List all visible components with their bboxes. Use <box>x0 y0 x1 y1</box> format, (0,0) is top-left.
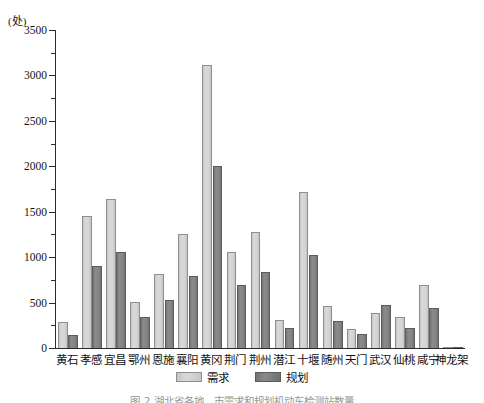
bar-demand <box>202 65 212 348</box>
bar-demand <box>178 234 188 348</box>
x-category-label: 宜昌 <box>104 351 126 367</box>
x-axis-category-labels: 黄石孝感宜昌鄂州恩施襄阳黄冈荆门荆州潜江十堰随州天门武汉仙桃咸宁神龙架 <box>55 351 465 367</box>
y-minor-tick-mark <box>51 325 55 326</box>
bar-group <box>251 30 271 348</box>
bar-demand <box>371 313 381 348</box>
y-tick-mark <box>49 257 55 258</box>
bar-group <box>227 30 247 348</box>
x-category-label: 孝感 <box>80 351 102 367</box>
bar-group <box>58 30 78 348</box>
bar-group <box>178 30 198 348</box>
bar-demand <box>106 199 116 348</box>
x-category-label: 潜江 <box>273 351 295 367</box>
bar-demand <box>347 329 357 348</box>
y-tick-mark <box>49 348 55 349</box>
bar-plan <box>237 285 247 348</box>
legend-item-plan: 规划 <box>255 369 308 385</box>
bar-plan <box>213 166 223 348</box>
bar-demand <box>275 320 285 348</box>
x-category-label: 鄂州 <box>128 351 150 367</box>
bar-plan <box>68 335 78 348</box>
y-minor-tick-mark <box>51 280 55 281</box>
x-category-label: 天门 <box>345 351 367 367</box>
y-tick-label: 1500 <box>24 206 47 218</box>
bar-group <box>395 30 415 348</box>
bar-group <box>419 30 439 348</box>
bar-group <box>275 30 295 348</box>
bar-demand <box>82 216 92 348</box>
bar-demand <box>443 347 453 348</box>
x-category-label: 黄石 <box>56 351 78 367</box>
bar-demand <box>395 317 405 348</box>
x-category-label: 仙桃 <box>393 351 415 367</box>
y-tick-label: 0 <box>41 342 47 354</box>
y-tick-label: 3000 <box>24 69 47 81</box>
bar-plan <box>92 266 102 348</box>
bar-group <box>443 30 463 348</box>
bar-demand <box>58 322 68 348</box>
x-category-label: 黄冈 <box>200 351 222 367</box>
bar-group <box>299 30 319 348</box>
bar-plan <box>189 276 199 348</box>
y-minor-tick-mark <box>51 98 55 99</box>
y-tick-mark <box>49 30 55 31</box>
figure-caption: 图 2 湖北省各地、市需求和规划机动车检测站数量 <box>0 393 484 403</box>
bar-group <box>154 30 174 348</box>
bar-demand <box>154 274 164 349</box>
x-category-label: 随州 <box>321 351 343 367</box>
x-category-label: 十堰 <box>297 351 319 367</box>
bar-plan <box>261 272 271 348</box>
x-axis-line <box>55 348 465 349</box>
y-tick-mark <box>49 303 55 304</box>
chart-container: (处) 0500100015002000250030003500 黄石孝感宜昌鄂… <box>0 0 484 403</box>
bar-plan <box>140 317 150 348</box>
y-minor-tick-mark <box>51 189 55 190</box>
y-tick-label: 3500 <box>24 24 47 36</box>
bar-group <box>347 30 367 348</box>
x-category-label: 恩施 <box>152 351 174 367</box>
bar-plan <box>285 328 295 348</box>
y-tick-mark <box>49 166 55 167</box>
y-minor-tick-mark <box>51 53 55 54</box>
bar-demand <box>299 192 309 348</box>
bar-group <box>202 30 222 348</box>
bar-plan <box>453 347 463 348</box>
bar-group <box>106 30 126 348</box>
x-category-label: 襄阳 <box>176 351 198 367</box>
bar-demand <box>130 302 140 348</box>
legend-label-demand: 需求 <box>207 369 229 385</box>
bar-plan <box>357 334 367 348</box>
x-category-label: 荆州 <box>249 351 271 367</box>
y-tick-label: 1000 <box>24 251 47 263</box>
y-tick-mark <box>49 75 55 76</box>
y-tick-mark <box>49 212 55 213</box>
bar-series-group <box>56 30 465 348</box>
y-minor-tick-mark <box>51 234 55 235</box>
bar-plan <box>116 252 126 348</box>
x-category-label: 武汉 <box>369 351 391 367</box>
x-category-label: 神龙架 <box>435 351 468 367</box>
bar-demand <box>251 232 261 348</box>
legend-swatch-plan-icon <box>255 372 281 382</box>
bar-demand <box>323 306 333 348</box>
legend-item-demand: 需求 <box>176 369 229 385</box>
bar-group <box>82 30 102 348</box>
bar-plan <box>381 305 391 348</box>
legend-label-plan: 规划 <box>286 369 308 385</box>
y-tick-label: 2500 <box>24 115 47 127</box>
chart-legend: 需求 规划 <box>0 369 484 385</box>
x-category-label: 荆门 <box>224 351 246 367</box>
y-minor-tick-mark <box>51 144 55 145</box>
y-tick-mark <box>49 121 55 122</box>
bar-demand <box>419 285 429 348</box>
plot-area: 0500100015002000250030003500 <box>55 30 465 348</box>
bar-group <box>130 30 150 348</box>
bar-plan <box>405 328 415 348</box>
y-tick-label: 500 <box>30 297 47 309</box>
bar-plan <box>429 308 439 348</box>
bar-group <box>371 30 391 348</box>
bar-plan <box>309 255 319 348</box>
bar-plan <box>165 300 175 348</box>
legend-swatch-demand-icon <box>176 372 202 382</box>
bar-demand <box>227 252 237 348</box>
